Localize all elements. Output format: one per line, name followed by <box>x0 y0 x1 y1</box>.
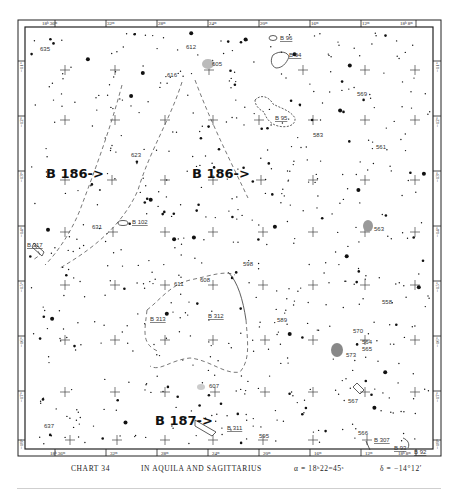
b186-left-annotation: B 186-> <box>46 166 104 181</box>
b312-label: B 312 <box>208 313 224 319</box>
obj-558: 558 <box>382 299 393 305</box>
dec-center: δ = −14°12′ <box>380 464 422 473</box>
dec-tick-left-6: −17° <box>19 392 24 402</box>
obj-569: 569 <box>357 91 368 97</box>
obj-607: 607 <box>209 383 220 389</box>
ra-tick-top-6: 12ᵐ <box>362 21 370 26</box>
ra-tick-top-5: 16ᵐ <box>311 21 319 26</box>
dec-tick-right-1: −12° <box>435 117 440 127</box>
star-field <box>29 31 430 444</box>
obj-566: 566 <box>358 430 369 436</box>
grid-crosses <box>60 65 420 445</box>
ra-tick-bottom-4: 20ᵐ <box>263 451 271 456</box>
dec-ticks-right: −11° −12° −13° −14° −15° −16° −17° −18° <box>433 61 441 449</box>
ra-tick-bottom-0: 18ʰ 36ᵐ <box>50 451 66 456</box>
dec-tick-right-4: −15° <box>435 282 440 292</box>
ra-tick-top-0: 18ʰ 36ᵐ <box>42 21 58 26</box>
ra-tick-top-7: 18ʰ 8ᵐ <box>400 21 413 26</box>
dec-tick-left-4: −15° <box>19 282 24 292</box>
b102-label: B 102 <box>132 219 148 225</box>
obj-573: 573 <box>346 352 357 358</box>
obj-611: 611 <box>174 281 184 287</box>
b96-label: B 96 <box>280 35 293 41</box>
obj-595: 595 <box>259 433 270 439</box>
ra-tick-top-3: 24ᵐ <box>209 21 217 26</box>
obj-637: 637 <box>44 423 55 429</box>
obj-635: 635 <box>40 46 51 52</box>
b313-label: B 313 <box>150 316 166 322</box>
obj-565: 565 <box>362 346 373 352</box>
dec-tick-left-0: −11° <box>19 62 24 72</box>
ra-tick-bottom-1: 32ᵐ <box>110 451 118 456</box>
chart-title: IN AQUILA AND SAGITTARIUS <box>141 464 262 473</box>
obj-598: 598 <box>243 261 254 267</box>
dec-tick-right-6: −17° <box>435 392 440 402</box>
obj-608: 608 <box>200 277 211 283</box>
b93-label: B 93 <box>394 445 407 451</box>
bright-nebulae <box>197 59 373 390</box>
star-chart: 18ʰ 36ᵐ 32ᵐ 28ᵐ 24ᵐ 20ᵐ 16ᵐ 12ᵐ 18ʰ 8ᵐ 1… <box>0 0 459 491</box>
chart-number: CHART 34 <box>71 464 110 473</box>
dec-ticks-left: −11° −12° −13° −14° −15° −16° −17° −18° <box>18 61 25 449</box>
ra-tick-bottom-2: 28ᵐ <box>161 451 169 456</box>
dec-tick-right-0: −11° <box>435 62 440 72</box>
dec-tick-right-2: −13° <box>435 172 440 182</box>
dec-tick-right-5: −16° <box>435 337 440 347</box>
obj-589: 589 <box>277 317 288 323</box>
inner-frame <box>25 27 433 449</box>
ra-tick-bottom-3: 24ᵐ <box>212 451 220 456</box>
ra-tick-top-4: 20ᵐ <box>260 21 268 26</box>
dec-tick-left-2: −13° <box>19 172 24 182</box>
dec-tick-right-3: −14° <box>435 227 440 237</box>
ra-ticks-bottom: 18ʰ 36ᵐ 32ᵐ 28ᵐ 24ᵐ 20ᵐ 16ᵐ 12ᵐ 18ʰ 8ᵐ <box>50 449 416 456</box>
ra-tick-top-2: 28ᵐ <box>158 21 166 26</box>
dec-tick-left-3: −14° <box>19 227 24 237</box>
obj-564: 564 <box>362 339 373 345</box>
page-rule <box>17 488 441 489</box>
obj-567: 567 <box>348 398 359 404</box>
obj-605: 605 <box>212 61 223 67</box>
obj-570: 570 <box>353 328 364 334</box>
obj-561: 561 <box>376 144 387 150</box>
ra-tick-bottom-7: 18ʰ 8ᵐ <box>398 451 411 456</box>
b94-label: B 94 <box>289 52 302 58</box>
obj-616: 616 <box>167 72 178 78</box>
ra-tick-top-1: 32ᵐ <box>107 21 115 26</box>
dec-tick-left-1: −12° <box>19 117 24 127</box>
b307-label: B 307 <box>374 437 390 443</box>
obj-583: 583 <box>313 132 324 138</box>
dec-tick-right-7: −18° <box>435 439 440 449</box>
b186-right-annotation: B 186-> <box>192 166 250 181</box>
b92-label: B 92 <box>414 449 427 455</box>
obj-631: 631 <box>92 224 103 230</box>
obj-612: 612 <box>186 44 197 50</box>
b311-label: B 311 <box>227 425 243 431</box>
ra-tick-bottom-6: 12ᵐ <box>365 451 373 456</box>
outer-frame <box>18 20 441 456</box>
obj-563: 563 <box>374 226 385 232</box>
dec-tick-left-7: −18° <box>19 439 24 449</box>
dec-tick-left-5: −16° <box>19 337 24 347</box>
ra-ticks-top: 18ʰ 36ᵐ 32ᵐ 28ᵐ 24ᵐ 20ᵐ 16ᵐ 12ᵐ 18ʰ 8ᵐ <box>42 20 416 27</box>
ra-tick-bottom-5: 16ᵐ <box>314 451 322 456</box>
b95-label: B 95 <box>275 115 288 121</box>
obj-623: 623 <box>131 152 142 158</box>
b187-annotation: B 187-> <box>155 413 213 428</box>
b317-label: B 317 <box>27 242 43 248</box>
b312-solid-edge <box>228 272 246 320</box>
barnard-outlines <box>32 36 409 451</box>
ra-center: α = 18ʰ22ᵐ45ˢ <box>294 464 344 473</box>
